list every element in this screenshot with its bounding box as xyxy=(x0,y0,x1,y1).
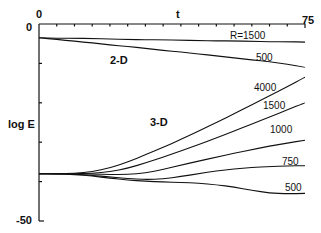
series-line-3d-r-500 xyxy=(39,174,305,194)
x-axis-min-label: 0 xyxy=(36,8,42,20)
group-label-3d: 3-D xyxy=(150,116,168,128)
series-label-3d-r750: 750 xyxy=(282,156,299,167)
series-line-3d-r-1000 xyxy=(39,140,305,174)
y-axis-min-label: -50 xyxy=(16,214,32,226)
series-label-2d-r1500: R=1500 xyxy=(230,30,265,41)
y-axis-title: log E xyxy=(8,118,35,130)
y-axis-max-label: 0 xyxy=(26,21,32,33)
series-label-3d-r500: 500 xyxy=(285,182,302,193)
x-axis-max-label: 75 xyxy=(302,14,314,26)
series-label-3d-r1500: 1500 xyxy=(263,100,285,111)
group-label-2d: 2-D xyxy=(110,54,128,66)
series-label-3d-r1000: 1000 xyxy=(270,124,292,135)
series-label-2d-r500: 500 xyxy=(256,52,273,63)
series-label-3d-r4000: 4000 xyxy=(254,82,276,93)
series-line-3d-r-1500 xyxy=(39,103,305,174)
x-axis-title: t xyxy=(176,8,180,20)
